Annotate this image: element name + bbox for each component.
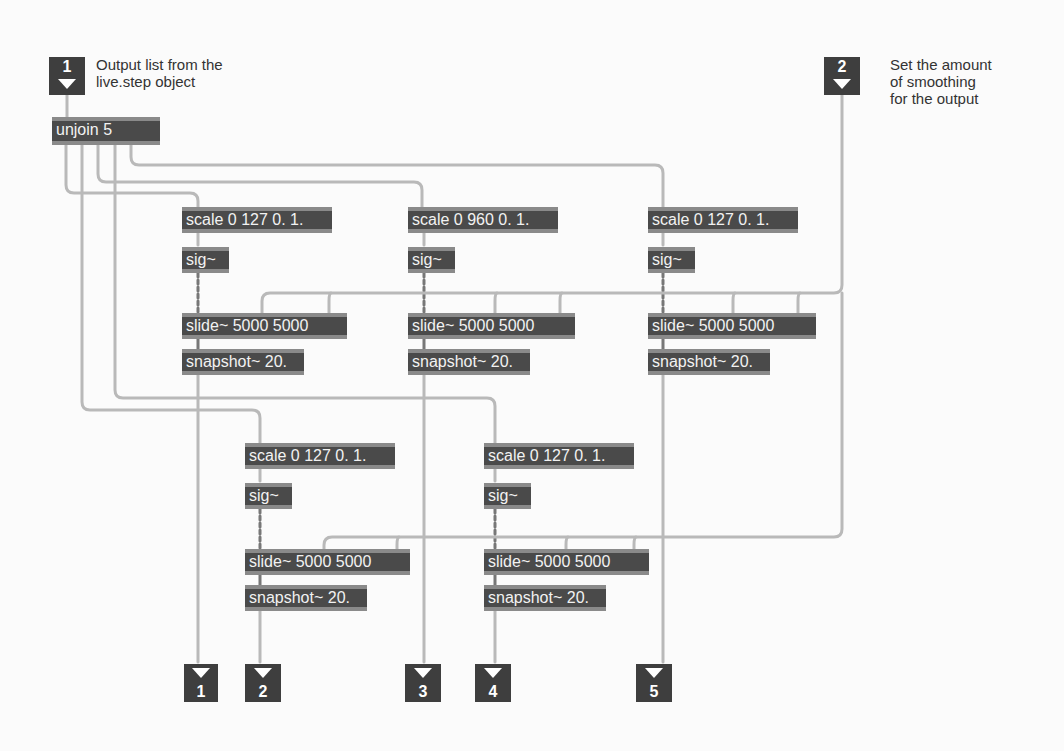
unjoin-object[interactable]: unjoin 5 — [52, 117, 160, 145]
sig-object-1[interactable]: sig~ — [182, 247, 229, 273]
outlet-4[interactable]: 4 — [475, 664, 511, 702]
outlet-number: 1 — [184, 683, 218, 701]
down-arrow-icon — [645, 668, 663, 678]
outlet-number: 5 — [636, 683, 672, 701]
down-arrow-icon — [254, 668, 272, 678]
inlet-number: 2 — [824, 58, 860, 76]
scale-object-2[interactable]: scale 0 960 0. 1. — [408, 207, 558, 233]
inlet-number: 1 — [49, 58, 85, 76]
sig-object-2[interactable]: sig~ — [408, 247, 455, 273]
inlet-1[interactable]: 1 — [49, 57, 85, 95]
down-arrow-icon — [192, 668, 210, 678]
snapshot-object-2[interactable]: snapshot~ 20. — [408, 349, 530, 375]
down-arrow-icon — [58, 79, 76, 89]
scale-object-4[interactable]: scale 0 127 0. 1. — [245, 443, 395, 469]
snapshot-object-3[interactable]: snapshot~ 20. — [648, 349, 770, 375]
sig-object-5[interactable]: sig~ — [484, 483, 531, 509]
snapshot-object-5[interactable]: snapshot~ 20. — [484, 585, 606, 611]
snapshot-object-4[interactable]: snapshot~ 20. — [245, 585, 367, 611]
sig-object-4[interactable]: sig~ — [245, 483, 292, 509]
outlet-5[interactable]: 5 — [636, 664, 672, 702]
slide-object-5[interactable]: slide~ 5000 5000 — [484, 549, 649, 575]
down-arrow-icon — [414, 668, 432, 678]
down-arrow-icon — [484, 668, 502, 678]
inlet-2[interactable]: 2 — [824, 57, 860, 95]
outlet-number: 4 — [475, 683, 511, 701]
patch-cords — [0, 0, 1064, 751]
outlet-3[interactable]: 3 — [405, 664, 441, 702]
slide-object-4[interactable]: slide~ 5000 5000 — [245, 549, 410, 575]
scale-object-5[interactable]: scale 0 127 0. 1. — [484, 443, 634, 469]
inlet-2-comment: Set the amount of smoothing for the outp… — [890, 56, 992, 107]
outlet-1[interactable]: 1 — [184, 664, 218, 702]
outlet-number: 2 — [245, 683, 281, 701]
slide-object-2[interactable]: slide~ 5000 5000 — [408, 313, 575, 339]
sig-object-3[interactable]: sig~ — [648, 247, 695, 273]
slide-object-1[interactable]: slide~ 5000 5000 — [182, 313, 347, 339]
down-arrow-icon — [833, 79, 851, 89]
scale-object-1[interactable]: scale 0 127 0. 1. — [182, 207, 332, 233]
inlet-1-comment: Output list from the live.step object — [96, 56, 223, 90]
scale-object-3[interactable]: scale 0 127 0. 1. — [648, 207, 798, 233]
outlet-number: 3 — [405, 683, 441, 701]
snapshot-object-1[interactable]: snapshot~ 20. — [182, 349, 304, 375]
outlet-2[interactable]: 2 — [245, 664, 281, 702]
slide-object-3[interactable]: slide~ 5000 5000 — [648, 313, 816, 339]
